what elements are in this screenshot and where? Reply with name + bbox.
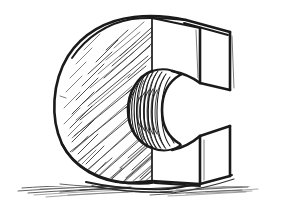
- sketch-canvas: Block letter C Hand-drawn ink sketch of …: [0, 0, 281, 218]
- letter-c-illustration: [0, 0, 281, 218]
